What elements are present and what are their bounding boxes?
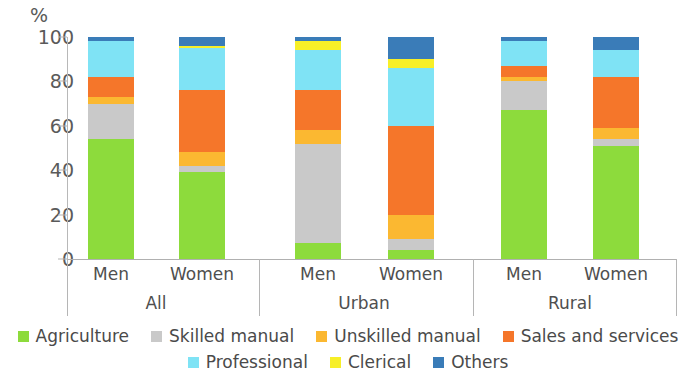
bar-segment[interactable] (88, 97, 134, 104)
legend-item[interactable]: Clerical (330, 352, 411, 372)
bar-segment[interactable] (593, 139, 639, 146)
bar-segment[interactable] (501, 66, 547, 77)
bar-segment[interactable] (179, 48, 225, 90)
legend-item[interactable]: Sales and services (503, 326, 679, 346)
bar-segment[interactable] (88, 139, 134, 259)
legend-item[interactable]: Skilled manual (151, 326, 294, 346)
bar-segment[interactable] (593, 146, 639, 259)
bar-segment[interactable] (295, 37, 341, 41)
bar-segment[interactable] (179, 172, 225, 259)
bar-segment[interactable] (88, 77, 134, 97)
legend-item[interactable]: Agriculture (18, 326, 130, 346)
legend-label: Agriculture (36, 326, 130, 346)
bar-segment[interactable] (179, 166, 225, 173)
y-axis-tick-mark (58, 125, 67, 126)
group-separator (473, 259, 474, 316)
legend-row-primary: AgricultureSkilled manualUnskilled manua… (0, 326, 696, 346)
bar-segment[interactable] (179, 46, 225, 48)
legend-row-secondary: ProfessionalClericalOthers (0, 352, 696, 372)
x-axis-line (67, 259, 676, 260)
stacked-bar[interactable] (179, 37, 225, 259)
legend-swatch-icon (433, 357, 444, 368)
x-axis-group-label: Urban (264, 293, 464, 313)
bar-segment[interactable] (88, 37, 134, 41)
x-axis-group-label: Rural (470, 293, 670, 313)
bar-segment[interactable] (593, 77, 639, 128)
chart-legend: AgricultureSkilled manualUnskilled manua… (0, 326, 696, 378)
stacked-bar[interactable] (295, 37, 341, 259)
bar-segment[interactable] (501, 37, 547, 41)
y-axis-unit-label: % (30, 4, 49, 26)
bar-segment[interactable] (388, 239, 434, 250)
x-axis-bar-label: Women (142, 264, 262, 284)
legend-label: Skilled manual (169, 326, 294, 346)
legend-swatch-icon (503, 331, 514, 342)
bar-segment[interactable] (295, 90, 341, 130)
stacked-bar[interactable] (388, 37, 434, 259)
bar-segment[interactable] (88, 104, 134, 140)
stacked-bar-chart: % 020406080100 MenWomenMenWomenMenWomen … (0, 0, 696, 389)
legend-label: Clerical (348, 352, 411, 372)
bar-segment[interactable] (295, 50, 341, 90)
bar-segment[interactable] (388, 59, 434, 68)
bar-segment[interactable] (388, 250, 434, 259)
plot-area (67, 37, 676, 259)
legend-swatch-icon (151, 331, 162, 342)
bar-segment[interactable] (593, 50, 639, 77)
x-axis-group-label: All (56, 293, 256, 313)
group-separator (676, 259, 677, 316)
legend-swatch-icon (18, 331, 29, 342)
legend-item[interactable]: Others (433, 352, 508, 372)
group-separator (259, 259, 260, 316)
y-axis-tick-mark (58, 259, 67, 260)
legend-label: Sales and services (521, 326, 679, 346)
bar-segment[interactable] (179, 37, 225, 46)
stacked-bar[interactable] (593, 37, 639, 259)
bar-segment[interactable] (501, 41, 547, 65)
x-axis-bar-label: Women (351, 264, 471, 284)
bar-segment[interactable] (501, 81, 547, 110)
bar-segment[interactable] (501, 77, 547, 81)
legend-item[interactable]: Unskilled manual (316, 326, 480, 346)
bar-segment[interactable] (295, 41, 341, 50)
y-axis-tick-mark (58, 81, 67, 82)
legend-label: Unskilled manual (334, 326, 480, 346)
legend-swatch-icon (188, 357, 199, 368)
bar-segment[interactable] (88, 41, 134, 77)
stacked-bar[interactable] (88, 37, 134, 259)
bar-segment[interactable] (388, 126, 434, 215)
bar-segment[interactable] (388, 37, 434, 59)
legend-label: Professional (206, 352, 308, 372)
bar-segment[interactable] (179, 152, 225, 165)
stacked-bar[interactable] (501, 37, 547, 259)
bar-segment[interactable] (179, 90, 225, 152)
y-axis-tick-mark (58, 170, 67, 171)
legend-swatch-icon (330, 357, 341, 368)
legend-item[interactable]: Professional (188, 352, 308, 372)
bar-segment[interactable] (388, 215, 434, 239)
bar-segment[interactable] (501, 110, 547, 259)
bar-segment[interactable] (295, 130, 341, 143)
y-axis-tick-mark (58, 37, 67, 38)
bar-segment[interactable] (593, 128, 639, 139)
legend-label: Others (451, 352, 508, 372)
group-separator (67, 259, 68, 316)
y-axis-tick-mark (58, 214, 67, 215)
legend-swatch-icon (316, 331, 327, 342)
bar-segment[interactable] (295, 243, 341, 259)
bar-segment[interactable] (593, 37, 639, 50)
bar-segment[interactable] (388, 68, 434, 126)
bar-segment[interactable] (295, 144, 341, 244)
x-axis-bar-label: Women (556, 264, 676, 284)
